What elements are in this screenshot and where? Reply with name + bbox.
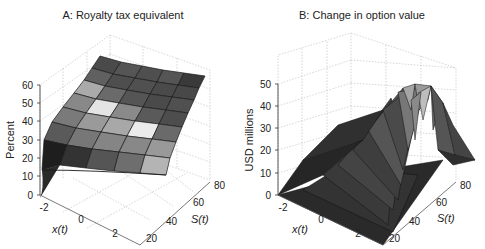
- panel-option-value: B: Change in option value: [243, 0, 485, 249]
- floor-axes: [40, 182, 210, 245]
- z-tick: 0: [27, 190, 33, 201]
- z-axis-label: Percent: [4, 121, 16, 159]
- x-tick: -2: [279, 202, 288, 213]
- z-tick: 30: [22, 135, 34, 146]
- z-tick: 20: [22, 153, 34, 164]
- y-tick: 80: [214, 180, 226, 191]
- surface-plot-option: 0 10 20 30 40 50 USD millions -2 0 2 x(t…: [243, 0, 485, 249]
- panel-royalty-tax: A: Royalty tax equivalent: [0, 0, 242, 249]
- y-tick: 60: [193, 197, 205, 208]
- z-tick: 50: [260, 79, 272, 90]
- y-axis-label: S(t): [191, 213, 209, 225]
- y-tick: 40: [409, 216, 421, 227]
- y-tick: 40: [166, 216, 178, 227]
- z-tick: 40: [260, 101, 272, 112]
- y-axis-label: S(t): [437, 212, 455, 224]
- z-tick: 30: [260, 123, 272, 134]
- x-axis-label: x(t): [51, 223, 68, 235]
- z-axis: [37, 85, 40, 195]
- z-tick: 20: [260, 145, 272, 156]
- x-tick: 0: [78, 214, 84, 225]
- y-tick: 80: [460, 180, 472, 191]
- z-tick: 0: [265, 190, 271, 201]
- z-tick: 50: [22, 98, 34, 109]
- y-tick: 20: [389, 233, 401, 244]
- x-axis-label: x(t): [291, 223, 308, 235]
- x-tick: 2: [112, 228, 118, 239]
- z-axis-label: USD millions: [243, 108, 255, 171]
- y-tick: 60: [436, 197, 448, 208]
- z-tick: 10: [260, 168, 272, 179]
- z-tick: 60: [22, 80, 34, 91]
- surface-plot-royalty: 0 10 20 30 40 50 60 Percent -2 0 2 x(t) …: [0, 0, 242, 249]
- z-tick: 10: [22, 171, 34, 182]
- z-tick: 40: [22, 116, 34, 127]
- z-axis: [275, 84, 278, 195]
- y-tick: 20: [146, 233, 158, 244]
- x-tick: 0: [318, 214, 324, 225]
- x-tick: 2: [355, 228, 361, 239]
- x-tick: -2: [40, 202, 49, 213]
